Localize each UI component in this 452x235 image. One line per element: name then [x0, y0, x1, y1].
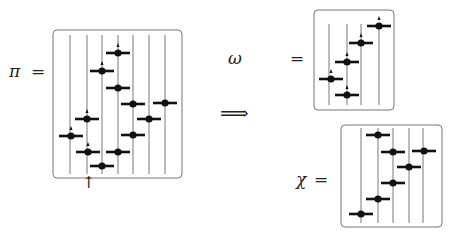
implies-arrow: ⟹ [220, 101, 249, 125]
pi-node [153, 99, 177, 106]
arrow-up-icon [86, 109, 89, 113]
arrow-up-icon [117, 43, 120, 47]
omega-node [335, 85, 359, 99]
arrow-up-icon [360, 33, 363, 37]
omega-label: ω [228, 48, 242, 68]
pi-node [137, 115, 161, 122]
omega-node [335, 52, 359, 66]
pi-node [75, 109, 99, 123]
pi-node [90, 61, 114, 75]
pi-node [121, 131, 145, 138]
chi-equals: = [314, 169, 328, 189]
omega-node [319, 69, 343, 83]
chi-label: χ [296, 169, 306, 189]
chi-frame [341, 125, 442, 227]
arrow-up-icon [101, 61, 104, 65]
pi-equals: = [31, 61, 45, 81]
omega-node [367, 16, 391, 30]
pi-node [121, 100, 145, 107]
pi-node [59, 126, 83, 140]
chi-node [366, 131, 390, 138]
arrow-up-icon [346, 52, 349, 56]
omega-diagram [314, 10, 394, 110]
marker-arrow-icon: ↑ [82, 173, 95, 192]
chi-node [412, 147, 436, 154]
chi-node [366, 195, 390, 202]
omega-node [349, 33, 373, 47]
pi-node [106, 43, 130, 57]
omega-equals: = [290, 48, 304, 68]
arrow-up-icon [346, 85, 349, 89]
chi-node [397, 163, 421, 170]
chi-diagram [341, 125, 442, 227]
arrow-up-icon [330, 69, 333, 73]
pi-node [90, 162, 114, 169]
pi-label: π [9, 61, 20, 81]
chi-node [349, 210, 373, 217]
pi-node [106, 84, 130, 91]
chi-node [381, 179, 405, 186]
chi-node [381, 148, 405, 155]
pi-diagram [53, 30, 182, 178]
pi-node [76, 142, 100, 156]
arrow-up-icon [378, 16, 381, 20]
pi-node [106, 148, 130, 155]
